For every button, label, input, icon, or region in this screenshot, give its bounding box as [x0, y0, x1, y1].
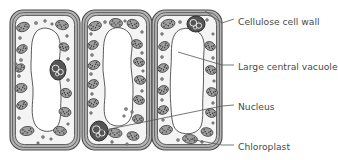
label-cellulose-cell-wall: Cellulose cell wall	[238, 16, 320, 27]
cells-layer	[10, 10, 222, 150]
cytoplasmic-granule	[67, 58, 70, 61]
cytoplasmic-granule	[51, 23, 54, 26]
cytoplasmic-granule	[90, 112, 93, 115]
cytoplasmic-granule	[111, 141, 114, 144]
cytoplasmic-granule	[18, 117, 21, 120]
cytoplasmic-granule	[212, 57, 215, 60]
label-large-central-vacuole: Large central vacuole	[238, 61, 338, 72]
plant-cell	[82, 10, 152, 150]
cytoplasmic-granule	[161, 78, 164, 81]
cytoplasmic-granule	[162, 119, 165, 122]
cytoplasmic-granule	[34, 21, 37, 24]
plant-cell	[10, 10, 80, 150]
cytoplasmic-granule	[18, 75, 21, 78]
cytoplasmic-granule	[91, 54, 94, 57]
cytoplasmic-granule	[177, 139, 180, 142]
cytoplasmic-granule	[50, 138, 53, 141]
nucleus	[50, 60, 66, 80]
cytoplasmic-granule	[142, 70, 145, 73]
cytoplasmic-granule	[212, 102, 215, 105]
cytoplasmic-granule	[141, 90, 144, 93]
label-chloroplast: Chloroplast	[238, 141, 290, 152]
nucleus	[187, 16, 205, 32]
cytoplasmic-granule	[66, 35, 69, 38]
cytoplasmic-granule	[37, 142, 40, 145]
cytoplasmic-granule	[212, 122, 215, 125]
cytoplasmic-granule	[161, 33, 164, 36]
plant-cell	[152, 10, 222, 150]
cytoplasmic-granule	[123, 115, 126, 118]
large-central-vacuole	[103, 28, 133, 126]
cytoplasmic-granule	[213, 80, 216, 83]
cytoplasmic-granule	[44, 20, 47, 23]
nucleus	[90, 121, 108, 141]
cytoplasmic-granule	[90, 73, 93, 76]
cytoplasmic-granule	[67, 79, 70, 82]
cytoplasmic-granule	[161, 56, 164, 59]
cytoplasmic-granule	[42, 136, 45, 139]
cytoplasmic-granule	[124, 20, 127, 23]
cytoplasmic-granule	[91, 93, 94, 96]
cytoplasmic-granule	[124, 107, 127, 110]
cytoplasmic-granule	[161, 99, 164, 102]
cytoplasmic-granule	[19, 58, 22, 61]
cytoplasmic-granule	[126, 143, 129, 146]
cytoplasmic-granule	[90, 33, 93, 36]
cytoplasmic-granule	[19, 37, 22, 40]
cytoplasmic-granule	[15, 63, 18, 66]
cytoplasmic-granule	[206, 19, 209, 22]
label-nucleus: Nucleus	[238, 101, 275, 112]
cytoplasmic-granule	[104, 21, 107, 24]
cytoplasmic-granule	[141, 52, 144, 55]
plant-cell-diagram: Cellulose cell wallLarge central vacuole…	[0, 0, 338, 160]
cytoplasmic-granule	[212, 33, 215, 36]
large-central-vacuole	[170, 28, 204, 133]
cytoplasmic-granule	[131, 111, 134, 114]
cytoplasmic-granule	[141, 31, 144, 34]
cytoplasmic-granule	[179, 21, 182, 24]
cytoplasmic-granule	[67, 123, 70, 126]
